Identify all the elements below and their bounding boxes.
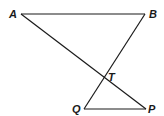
label-p: P	[148, 103, 156, 115]
segment-ap	[21, 14, 146, 109]
label-a: A	[8, 8, 17, 20]
label-b: B	[149, 8, 157, 20]
label-t: T	[108, 71, 116, 83]
label-q: Q	[72, 103, 81, 115]
segment-bq	[84, 14, 145, 109]
geometry-diagram: A B T Q P	[0, 0, 164, 116]
